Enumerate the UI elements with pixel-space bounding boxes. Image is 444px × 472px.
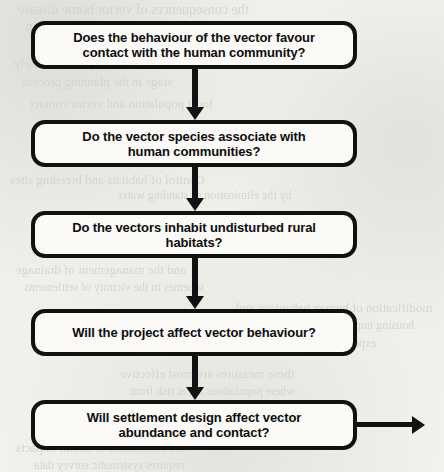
bleed-through-fragment: schemes in the vicinity of settlements: [24, 280, 204, 295]
arrow-shaft: [192, 356, 198, 389]
arrow-head: [186, 387, 204, 400]
arrow-head: [186, 107, 204, 120]
bleed-through-fragment: requires systematic survey data: [34, 458, 184, 472]
arrow-right-icon-exit: [357, 415, 425, 435]
arrow-shaft: [357, 422, 415, 427]
flowchart-page: the consequences of vector borne disease…: [0, 0, 444, 472]
arrow-head: [412, 416, 425, 434]
flowchart-node-1: Does the behaviour of the vector favour …: [31, 21, 357, 69]
flowchart-node-5: Will settlement design affect vector abu…: [31, 400, 357, 450]
flowchart-node-2: Do the vector species associate with hum…: [31, 120, 357, 167]
bleed-through-fragment: these measures are most effective: [120, 366, 294, 381]
bleed-through-fragment: the consequences of vector borne disease: [18, 2, 249, 17]
flowchart-node-1-label: Does the behaviour of the vector favour …: [73, 30, 315, 60]
arrow-shaft: [192, 167, 198, 200]
arrow-down-icon-4: [184, 356, 206, 400]
flowchart-node-2-label: Do the vector species associate with hum…: [82, 129, 305, 159]
arrow-head: [186, 198, 204, 211]
flowchart-node-4-label: Will the project affect vector behaviour…: [72, 325, 316, 340]
arrow-shaft: [192, 258, 198, 298]
bleed-through-fragment: where populations are at risk from: [130, 384, 295, 399]
bleed-through-fragment: local population and vector contact: [30, 96, 213, 111]
arrow-down-icon-1: [184, 69, 206, 120]
flowchart-node-5-label: Will settlement design affect vector abu…: [87, 410, 301, 440]
bleed-through-fragment: and the management of drainage: [16, 262, 186, 277]
flowchart-node-3: Do the vectors inhabit undisturbed rural…: [31, 211, 357, 258]
bleed-through-fragment: by the elimination of standing water: [118, 188, 292, 203]
bleed-through-fragment: Control of habitats and breeding sites: [10, 172, 205, 187]
flowchart-node-4: Will the project affect vector behaviour…: [31, 309, 357, 356]
arrow-down-icon-2: [184, 167, 206, 211]
arrow-down-icon-3: [184, 258, 206, 309]
arrow-shaft: [192, 69, 198, 109]
bleed-through-fragment: stage in the planning process: [22, 74, 172, 89]
arrow-head: [186, 296, 204, 309]
flowchart-node-3-label: Do the vectors inhabit undisturbed rural…: [72, 220, 316, 250]
